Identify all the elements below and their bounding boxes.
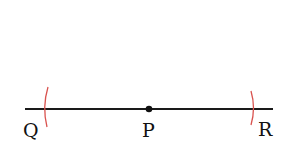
- label-q: Q: [23, 119, 39, 141]
- diagram-canvas: Q P R: [0, 0, 297, 154]
- label-p: P: [142, 119, 155, 141]
- label-r: R: [258, 118, 273, 140]
- arc-q: [45, 87, 48, 127]
- point-p: [146, 106, 153, 113]
